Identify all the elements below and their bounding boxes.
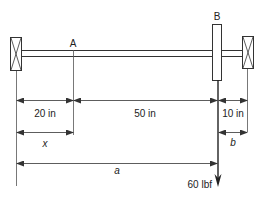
dimension-20in: 20 in bbox=[34, 108, 56, 119]
dimension-a: a bbox=[114, 165, 120, 176]
dimension-10in: 10 in bbox=[222, 108, 244, 119]
load-label: 60 lbf bbox=[188, 179, 213, 190]
dimension-b: b bbox=[230, 137, 236, 148]
point-b-label: B bbox=[214, 11, 221, 22]
left-bearing-icon bbox=[11, 38, 22, 71]
right-bearing-icon bbox=[243, 37, 254, 69]
shaft bbox=[21, 51, 242, 57]
load-arrow-icon bbox=[215, 80, 222, 187]
dimension-50in: 50 in bbox=[134, 108, 156, 119]
shaft-diagram: A B 20 in 50 in 10 in x b a 60 lbf bbox=[0, 0, 263, 198]
dimension-x: x bbox=[42, 138, 49, 149]
pulley-b bbox=[213, 25, 222, 81]
point-a-label: A bbox=[70, 38, 77, 49]
